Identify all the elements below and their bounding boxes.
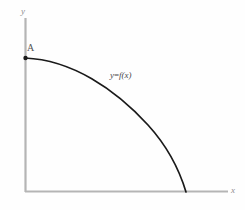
function-curve — [25, 58, 186, 192]
function-graph-figure: y x A y=f(x) — [0, 0, 245, 210]
x-axis-label: x — [231, 186, 235, 195]
plot-canvas — [0, 0, 245, 210]
curve-equation-rhs: f(x) — [119, 70, 132, 80]
point-a-marker — [23, 56, 27, 60]
y-axis-label: y — [21, 7, 25, 16]
curve-equation-label: y=f(x) — [110, 71, 132, 80]
point-a-label: A — [27, 43, 34, 53]
